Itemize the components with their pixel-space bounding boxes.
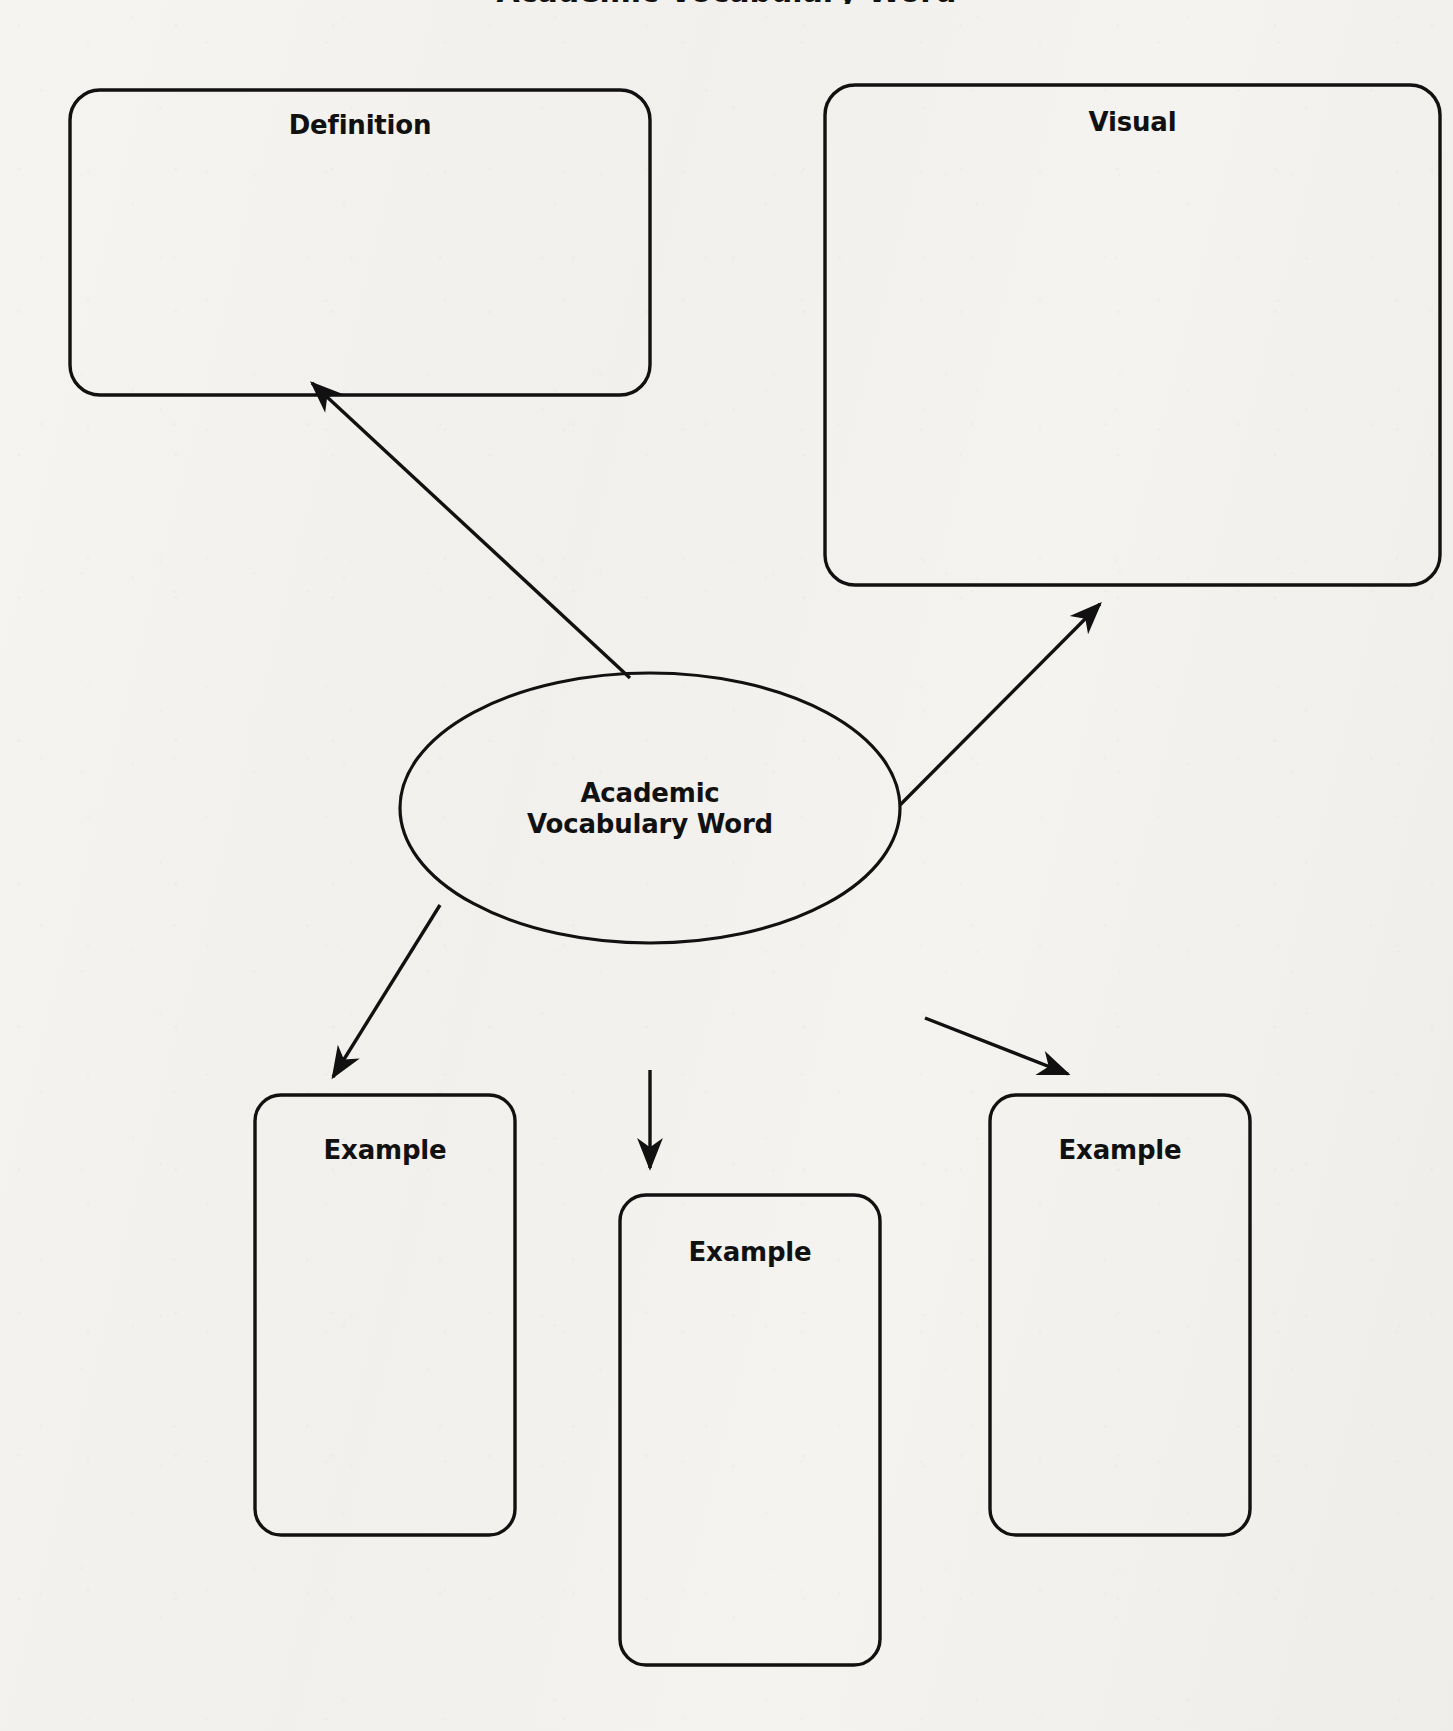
arrow-center-to-visual [900,604,1100,805]
center-oval[interactable] [400,673,900,943]
arrow-center-to-example-left [333,905,440,1077]
visual-box[interactable] [825,85,1440,585]
example-right-box[interactable] [990,1095,1250,1535]
worksheet-page: Academic Vocabulary Word Definition Visu… [0,0,1453,1731]
example-left-box[interactable] [255,1095,515,1535]
arrow-center-to-definition [312,383,630,678]
diagram-canvas [0,0,1453,1731]
definition-box[interactable] [70,90,650,395]
arrow-center-to-example-right [925,1018,1068,1074]
example-middle-box[interactable] [620,1195,880,1665]
